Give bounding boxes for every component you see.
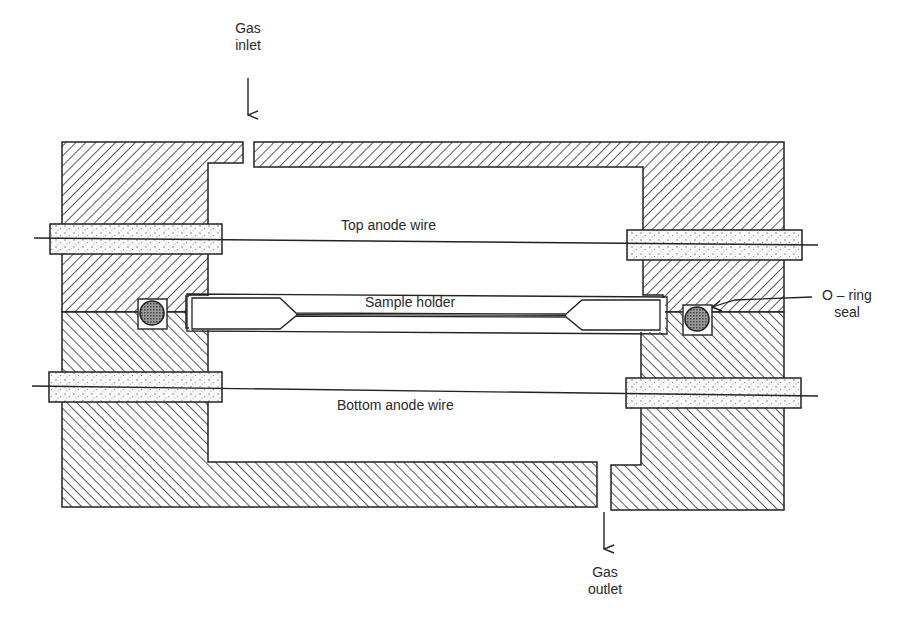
lower-housing-right (611, 312, 784, 510)
bottom-right-insulator (626, 378, 801, 408)
gas-outlet-label: Gas outlet (575, 564, 635, 598)
o-ring-seal-label: O – ring seal (812, 287, 882, 321)
right-o-ring (683, 305, 712, 335)
lower-housing-left (62, 312, 597, 507)
sample-holder-label: Sample holder (365, 294, 455, 311)
upper-housing-right (254, 142, 784, 312)
cell-diagram (0, 0, 919, 623)
top-anode-wire-label: Top anode wire (341, 217, 436, 234)
left-o-ring (138, 299, 167, 329)
bottom-anode-wire-label: Bottom anode wire (337, 397, 454, 414)
gas-inlet-label: Gas inlet (222, 20, 274, 54)
